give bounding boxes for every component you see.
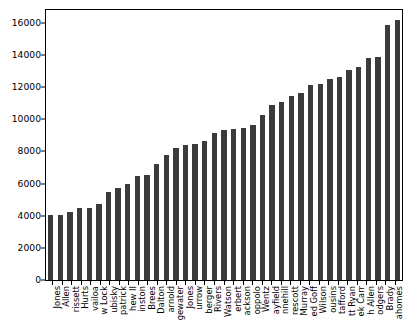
x-axis-tick-mark — [195, 281, 196, 285]
bar-series — [46, 10, 402, 280]
x-axis-tick-mark — [252, 281, 253, 285]
x-axis-tick-label: ousins — [329, 286, 337, 313]
bar — [308, 85, 313, 280]
x-axis-tick-label: ek Carr — [357, 286, 365, 316]
x-axis-tick-mark — [157, 281, 158, 285]
x-axis-tick-mark — [119, 281, 120, 285]
x-axis-tick-label-text: erbert — [234, 286, 242, 312]
x-axis-tick-label: h Allen — [367, 286, 375, 315]
y-axis-tick-mark — [41, 151, 45, 152]
bar — [87, 208, 92, 280]
bar — [327, 79, 332, 280]
bar-chart-figure: 0200040006000800010000120001400016000 Jo… — [0, 0, 411, 327]
bar — [115, 188, 120, 280]
x-axis-tick-label-text: inston — [138, 286, 146, 312]
bar — [183, 145, 188, 280]
x-axis-tick-label: ed Goff — [310, 286, 318, 317]
x-axis-tick-label-text: urrow — [195, 286, 203, 310]
x-axis-tick-mark — [366, 281, 367, 285]
x-axis-tick-label: tafford — [338, 286, 346, 314]
y-axis-tick-label: 6000 — [18, 179, 41, 188]
x-axis-tick-label-text: h Allen — [367, 286, 375, 315]
y-axis-tick-label: 8000 — [18, 147, 41, 156]
x-axis-tick-label: ubisky — [110, 286, 118, 313]
bar — [58, 215, 63, 280]
y-axis-tick-label: 4000 — [18, 211, 41, 220]
x-axis-tick-label: tt Ryan — [348, 286, 356, 316]
x-axis-tick-mark — [138, 281, 139, 285]
x-axis-tick-mark — [109, 281, 110, 285]
x-axis-tick-label-text: ed Goff — [310, 286, 318, 317]
x-axis-tick-mark — [281, 281, 282, 285]
bar — [375, 57, 380, 280]
x-axis-tick-label-text: Hurts — [81, 286, 89, 309]
x-axis-tick-label-text: rissett — [72, 286, 80, 312]
x-axis-tick-label-text: Rivers — [214, 286, 222, 312]
x-axis-tick-mark — [52, 281, 53, 285]
x-axis-tick-label: Wentz — [262, 286, 270, 312]
x-axis-tick-label: Hurts — [81, 286, 89, 309]
x-axis-tick-label: urrow — [195, 286, 203, 310]
x-axis-tick-label: Brady — [386, 286, 394, 311]
x-axis-tick-label: vailoa — [91, 286, 99, 311]
x-axis-tick-label-text: w Lock — [100, 286, 108, 315]
bar — [298, 93, 303, 280]
x-axis-tick-label: Rivers — [214, 286, 222, 312]
x-axis-tick-mark — [224, 281, 225, 285]
y-axis-tick-label: 10000 — [12, 115, 41, 124]
x-axis-tick-mark — [204, 281, 205, 285]
x-axis-tick-label: rissett — [72, 286, 80, 312]
bar — [96, 204, 101, 281]
bar — [164, 155, 169, 280]
x-axis-tick-mark — [243, 281, 244, 285]
x-axis-tick-label-text: Dalton — [157, 286, 165, 314]
bar — [269, 105, 274, 280]
x-axis-tick-label-text: oppolo — [253, 286, 261, 314]
y-axis-tick-mark — [41, 215, 45, 216]
bar — [48, 215, 53, 280]
bar — [125, 184, 130, 280]
x-axis-tick-mark — [290, 281, 291, 285]
x-axis-tick-mark — [395, 281, 396, 285]
bar — [77, 208, 82, 280]
y-axis-tick-labels: 0200040006000800010000120001400016000 — [0, 9, 41, 281]
x-axis-tick-label: Jones — [53, 286, 61, 308]
bar — [202, 141, 207, 280]
bar — [356, 67, 361, 280]
y-axis-tick-mark — [41, 87, 45, 88]
x-axis-tick-mark — [81, 281, 82, 285]
y-axis-tick-label: 14000 — [12, 50, 41, 59]
bar — [279, 102, 284, 280]
bar — [144, 175, 149, 280]
bar — [231, 129, 236, 280]
x-axis-tick-mark — [271, 281, 272, 285]
x-axis-tick-mark — [147, 281, 148, 285]
x-axis-tick-label: ackson — [243, 286, 251, 315]
x-axis-tick-mark — [376, 281, 377, 285]
x-axis-tick-label-text: Watson — [224, 286, 232, 317]
x-axis-tick-label-text: Wentz — [262, 286, 270, 312]
bar — [212, 133, 217, 280]
x-axis-tick-label-text: vailoa — [91, 286, 99, 311]
x-axis-tick-label-text: nnehill — [281, 286, 289, 314]
bar — [250, 125, 255, 280]
x-axis-tick-mark — [262, 281, 263, 285]
x-axis-tick-label: odgers — [376, 286, 384, 315]
x-axis-tick-labels: JonesAllenrissettHurtsvailoaw Lockubisky… — [46, 281, 402, 327]
y-axis-tick-mark — [41, 247, 45, 248]
x-axis-tick-label-text: rescott — [291, 286, 299, 315]
x-axis-tick-label: gewater — [176, 286, 184, 320]
x-axis-tick-label: nnehill — [281, 286, 289, 314]
x-axis-tick-mark — [214, 281, 215, 285]
x-axis-tick-label-text: ek Carr — [357, 286, 365, 316]
x-axis-tick-mark — [309, 281, 310, 285]
x-axis-tick-label-text: Allen — [62, 286, 70, 307]
x-axis-tick-label: Allen — [62, 286, 70, 307]
x-axis-tick-mark — [62, 281, 63, 285]
x-axis-tick-label-text: Brady — [386, 286, 394, 311]
x-axis-tick-label: Wilson — [319, 286, 327, 314]
y-axis-tick-mark — [41, 119, 45, 120]
bar — [395, 20, 400, 280]
x-axis-tick-mark — [233, 281, 234, 285]
bar — [192, 144, 197, 280]
